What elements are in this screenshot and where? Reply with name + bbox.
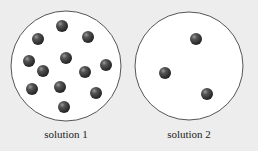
solution-1-container [11,11,121,121]
solute-particle-icon [100,59,112,71]
solute-particle-icon [54,81,66,93]
solution-2-container [135,12,243,120]
solute-particle-icon [56,20,68,32]
solute-particle-icon [90,87,102,99]
solute-particle-icon [190,33,202,45]
solute-particle-icon [82,31,94,43]
solute-particle-icon [58,101,70,113]
solute-particle-icon [201,88,213,100]
solute-particle-icon [60,52,72,64]
solute-particle-icon [79,66,91,78]
solution-1-label: solution 1 [26,127,106,141]
solution-2-circle [135,12,243,120]
solute-particle-icon [159,67,171,79]
solute-particle-icon [37,65,49,77]
solution-2-label: solution 2 [149,127,229,141]
solute-particle-icon [23,55,35,67]
solute-particle-icon [32,33,44,45]
solute-particle-icon [26,83,38,95]
